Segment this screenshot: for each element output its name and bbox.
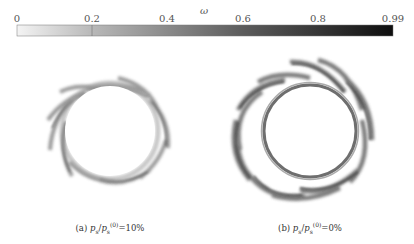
- caption-label: (a): [76, 223, 90, 233]
- opening-a: [65, 86, 155, 176]
- figure-graphics: [0, 0, 414, 244]
- caption-value: =0%: [321, 223, 342, 233]
- figure: ω 0 0.2 0.4 0.6 0.8 0.99: [0, 0, 414, 244]
- caption-subscript: s: [107, 228, 110, 235]
- colorbar: [17, 25, 393, 36]
- caption-subscript: s: [95, 228, 98, 235]
- caption-superscript: (0): [313, 221, 322, 228]
- damage-plot-b: [234, 60, 372, 199]
- opening-b: [267, 88, 353, 174]
- caption-label: (b): [278, 223, 293, 233]
- caption-superscript: (0): [110, 221, 119, 228]
- caption-value: =10%: [118, 223, 144, 233]
- damage-plot-a: [48, 78, 168, 182]
- caption-subscript: s: [298, 228, 301, 235]
- caption-a: (a) ps/ps(0)=10%: [76, 221, 145, 235]
- caption-subscript: s: [310, 228, 313, 235]
- caption-b: (b) ps/ps(0)=0%: [278, 221, 342, 235]
